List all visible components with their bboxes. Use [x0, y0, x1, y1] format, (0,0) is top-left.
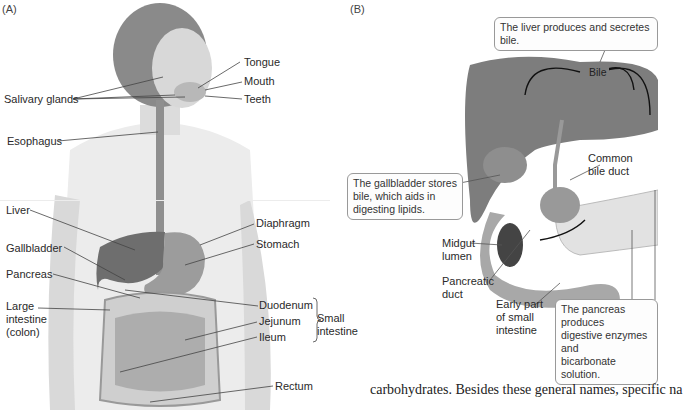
panel-a-label: (A)	[2, 3, 17, 15]
divider	[0, 200, 330, 201]
label-duodenum: Duodenum	[259, 299, 313, 312]
label-bile: Bile	[587, 66, 609, 79]
label-pancreas: Pancreas	[6, 268, 52, 281]
label-stomach: Stomach	[256, 238, 299, 251]
body-text-line: carbohydrates. Besides these general nam…	[370, 382, 683, 398]
panel-b-label: (B)	[350, 3, 365, 15]
label-early-small-intestine: Early part of small intestine	[496, 298, 543, 337]
label-ileum: Ileum	[259, 331, 286, 344]
label-large-intestine: Large intestine (colon)	[6, 300, 47, 339]
label-diaphragm: Diaphragm	[256, 217, 310, 230]
label-tongue: Tongue	[244, 56, 280, 69]
callout-liver: The liver produces and secretes bile.	[494, 17, 658, 51]
panel-a-figure: (A) Tongue Mouth Teeth Salivary glands E…	[0, 0, 330, 410]
label-common-bile-duct: Common bile duct	[588, 152, 633, 178]
label-mouth: Mouth	[244, 75, 275, 88]
human-figure-illustration	[0, 0, 330, 410]
callout-gallbladder: The gallbladder stores bile, which aids …	[347, 173, 463, 220]
label-jejunum: Jejunum	[259, 315, 301, 328]
label-teeth: Teeth	[244, 93, 271, 106]
callout-pancreas: The pancreas produces digestive enzymes …	[555, 299, 658, 385]
panel-b-figure: (B) The liver produces and secretes bile…	[330, 0, 658, 410]
label-rectum: Rectum	[275, 380, 313, 393]
label-salivary-glands: Salivary glands	[4, 93, 79, 106]
label-liver: Liver	[6, 204, 30, 217]
label-pancreatic-duct: Pancreatic duct	[442, 275, 494, 301]
label-midgut-lumen: Midgut lumen	[442, 237, 475, 263]
label-esophagus: Esophagus	[7, 135, 62, 148]
label-gallbladder: Gallbladder	[6, 242, 62, 255]
